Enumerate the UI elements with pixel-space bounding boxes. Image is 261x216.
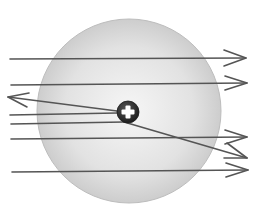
arrowhead-right-icon xyxy=(224,143,247,158)
diagram-canvas xyxy=(0,0,261,216)
rutherford-scattering-diagram: Alpha particle scattering by an atom (Ru… xyxy=(0,0,261,216)
nucleus xyxy=(117,101,139,123)
